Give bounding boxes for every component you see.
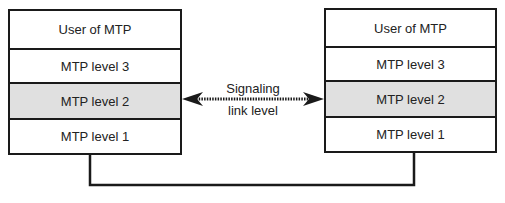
layer-mtp-level-2: MTP level 2: [326, 80, 495, 116]
layer-label: MTP level 3: [376, 57, 444, 72]
layer-label: MTP level 3: [61, 59, 129, 74]
layer-user-of-mtp: User of MTP: [10, 11, 180, 48]
signaling-link-label-top: Signaling: [203, 80, 303, 97]
layer-user-of-mtp: User of MTP: [326, 10, 495, 46]
layer-label: MTP level 1: [376, 127, 444, 142]
layer-mtp-level-2: MTP level 2: [10, 82, 180, 118]
link-label-line2: link level: [228, 103, 278, 118]
layer-label: User of MTP: [374, 21, 447, 36]
layer-label: MTP level 2: [61, 94, 129, 109]
arrow-right-icon: [303, 92, 324, 106]
left-protocol-stack: User of MTP MTP level 3 MTP level 2 MTP …: [8, 9, 182, 155]
layer-label: MTP level 1: [61, 129, 129, 144]
layer-mtp-level-1: MTP level 1: [10, 118, 180, 153]
right-protocol-stack: User of MTP MTP level 3 MTP level 2 MTP …: [324, 8, 497, 153]
layer-mtp-level-3: MTP level 3: [326, 46, 495, 80]
layer-mtp-level-3: MTP level 3: [10, 48, 180, 82]
layer-label: User of MTP: [59, 22, 132, 37]
layer-label: MTP level 2: [376, 92, 444, 107]
layer-mtp-level-1: MTP level 1: [326, 116, 495, 151]
signaling-link-label-bottom: link level: [203, 102, 303, 119]
physical-link-line: [90, 152, 414, 185]
link-label-line1: Signaling: [226, 81, 280, 96]
